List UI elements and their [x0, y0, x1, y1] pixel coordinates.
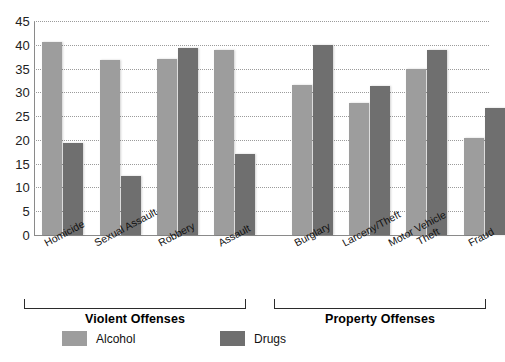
- bar-drugs-robbery: [178, 48, 198, 235]
- bar-alcohol-homicide: [42, 42, 62, 235]
- y-tick-35: 35: [0, 61, 30, 76]
- bar-group: [348, 21, 390, 235]
- legend-item-alcohol: Alcohol: [62, 331, 135, 346]
- y-tick-45: 45: [0, 14, 30, 29]
- figure-caption: [4, 355, 496, 362]
- plot-area: [34, 21, 489, 235]
- x-axis-labels: HomicideSexual AssaultRobberyAssaultBurg…: [34, 238, 489, 296]
- y-tick-25: 25: [0, 109, 30, 124]
- y-tick-15: 15: [0, 156, 30, 171]
- legend-label-alcohol: Alcohol: [96, 332, 135, 346]
- bar-group: [213, 21, 255, 235]
- bracket-property-offenses: [274, 299, 486, 309]
- bar-alcohol-larceny-theft: [349, 103, 369, 235]
- legend: Alcohol Drugs: [34, 331, 489, 353]
- bar-drugs-motor-vehicle-theft: [427, 50, 447, 235]
- bar-drugs-fraud: [485, 108, 505, 235]
- legend-swatch-alcohol: [62, 331, 87, 346]
- y-tick-20: 20: [0, 132, 30, 147]
- y-tick-10: 10: [0, 180, 30, 195]
- bar-alcohol-motor-vehicle-theft: [406, 69, 426, 235]
- y-tick-30: 30: [0, 85, 30, 100]
- y-tick-5: 5: [0, 204, 30, 219]
- bar-alcohol-sexual-assault: [100, 60, 120, 235]
- bar-drugs-burglary: [313, 45, 333, 235]
- bar-group: [291, 21, 333, 235]
- bar-alcohol-assault: [214, 50, 234, 235]
- panel-title-violent-offenses: Violent Offenses: [24, 312, 246, 326]
- bar-group: [41, 21, 83, 235]
- bar-group: [405, 21, 447, 235]
- bar-alcohol-burglary: [292, 85, 312, 235]
- y-tick-40: 40: [0, 37, 30, 52]
- bar-alcohol-fraud: [464, 138, 484, 235]
- legend-label-drugs: Drugs: [254, 332, 286, 346]
- legend-item-drugs: Drugs: [220, 331, 286, 346]
- bar-group: [463, 21, 505, 235]
- bar-alcohol-robbery: [157, 59, 177, 235]
- legend-swatch-drugs: [220, 331, 245, 346]
- y-tick-0: 0: [0, 228, 30, 243]
- bar-group: [99, 21, 141, 235]
- bar-group: [156, 21, 198, 235]
- panel-title-property-offenses: Property Offenses: [274, 312, 486, 326]
- y-axis: 45 40 35 30 25 20 15 10 5 0: [0, 21, 30, 235]
- bracket-violent-offenses: [24, 299, 246, 309]
